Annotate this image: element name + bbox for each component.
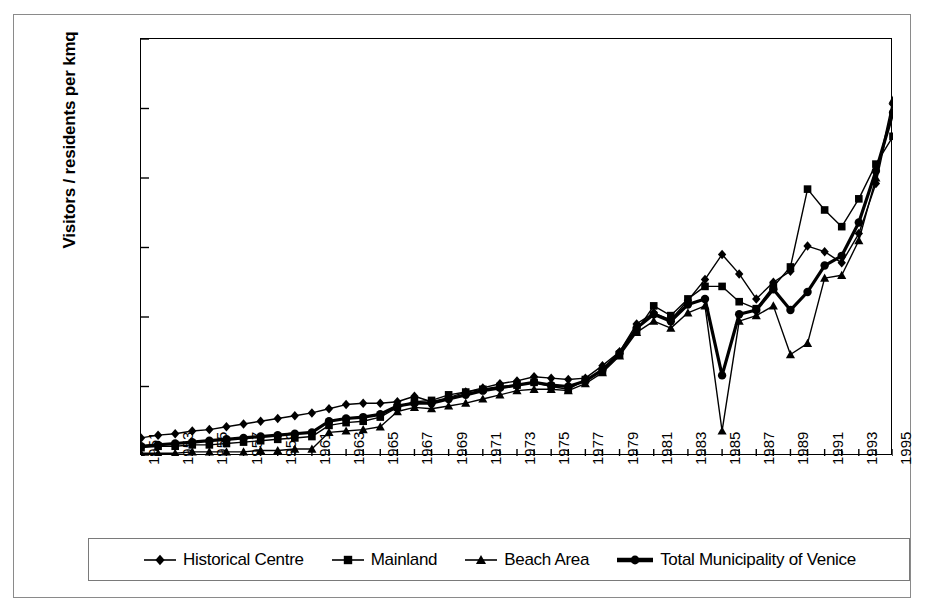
series-mainland — [141, 133, 893, 452]
diamond-marker-icon — [142, 552, 178, 568]
legend-label: Historical Centre — [183, 550, 304, 570]
circle-marker-icon — [615, 552, 655, 568]
legend-entry-beach-area[interactable]: Beach Area — [463, 550, 589, 570]
x-tick-label: 1979 — [625, 432, 640, 465]
x-tick-label: 1971 — [488, 432, 503, 465]
x-tick-label: 1969 — [454, 432, 469, 465]
x-tick-label: 1973 — [522, 432, 537, 465]
x-tick-label: 1977 — [590, 432, 605, 465]
x-tick-label: 1959 — [283, 432, 298, 465]
legend-entry-historical-centre[interactable]: Historical Centre — [142, 550, 304, 570]
x-tick-label: 1955 — [214, 432, 229, 465]
x-tick-label: 1961 — [317, 432, 332, 465]
x-tick-label: 1965 — [385, 432, 400, 465]
x-tick-label: 1985 — [727, 432, 742, 465]
x-tick-label: 1975 — [556, 432, 571, 465]
x-tick-label: 1967 — [419, 432, 434, 465]
x-tick-label: 1953 — [180, 432, 195, 465]
x-tick-label: 1987 — [761, 432, 776, 465]
plot-area — [140, 38, 892, 455]
legend-entry-mainland[interactable]: Mainland — [330, 550, 438, 570]
legend-entry-total-municipality-of-venice[interactable]: Total Municipality of Venice — [615, 550, 856, 570]
chart-figure: Visitors / residents per kmq 300,00250,0… — [0, 0, 926, 616]
legend-label: Beach Area — [504, 550, 589, 570]
chart-legend: Historical CentreMainlandBeach AreaTotal… — [88, 538, 910, 581]
triangle-marker-icon — [463, 552, 499, 568]
x-tick-label: 1951 — [146, 432, 161, 465]
series-beach-area — [141, 96, 893, 456]
x-tick-label: 1991 — [830, 432, 845, 465]
x-tick-label: 1963 — [351, 432, 366, 465]
x-tick-label: 1989 — [795, 432, 810, 465]
square-marker-icon — [330, 552, 366, 568]
x-tick-label: 1981 — [659, 432, 674, 465]
y-axis-title: Visitors / residents per kmq — [60, 0, 80, 290]
x-tick-label: 1957 — [249, 432, 264, 465]
x-tick-label: 1993 — [864, 432, 879, 465]
plot-svg — [141, 39, 893, 456]
x-tick-label: 1983 — [693, 432, 708, 465]
legend-label: Total Municipality of Venice — [660, 550, 856, 570]
legend-label: Mainland — [371, 550, 438, 570]
x-tick-label: 1995 — [898, 432, 913, 465]
